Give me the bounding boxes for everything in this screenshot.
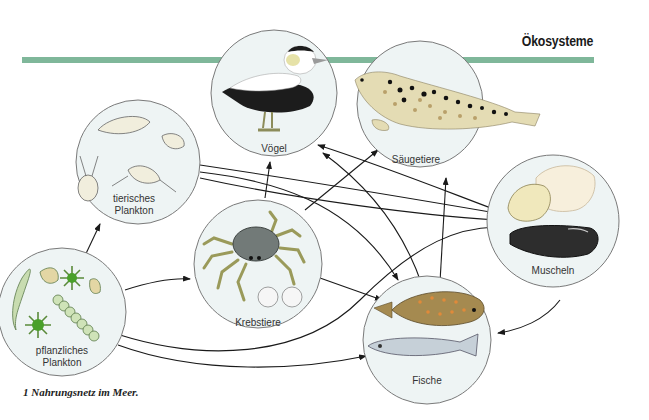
node-label-muscheln: Muscheln: [532, 265, 575, 276]
node-tierisches-plankton[interactable]: tierisches Plankton: [76, 100, 200, 224]
edge-pflanz-to-krebs: [125, 279, 190, 290]
food-web-diagram: Vögel Säugetiere: [0, 0, 649, 420]
node-label-voegel: Vögel: [261, 143, 287, 154]
node-label-pflanzliches: pflanzliches: [36, 345, 88, 356]
node-fische[interactable]: Fische: [363, 276, 491, 404]
node-muscheln[interactable]: Muscheln: [487, 155, 619, 287]
figure-caption: 1 Nahrungsnetz im Meer.: [23, 386, 139, 398]
node-saeugetiere[interactable]: Säugetiere: [355, 41, 540, 167]
edge-muscheln-to-fische: [498, 300, 560, 333]
edge-fische-to-saeuge: [440, 178, 446, 282]
edge-pflanz-to-fische: [118, 345, 366, 367]
node-label-saeugetiere: Säugetiere: [392, 154, 441, 165]
edge-fische-to-voegel: [323, 153, 422, 285]
node-label-krebstiere: Krebstiere: [235, 317, 281, 328]
node-pflanzliches-plankton[interactable]: pflanzliches Plankton: [0, 248, 126, 376]
node-label-plankton-plant: Plankton: [43, 357, 82, 368]
node-label-fische: Fische: [412, 375, 442, 386]
edge-krebs-to-saeuge: [305, 150, 378, 210]
node-krebstiere[interactable]: Krebstiere: [194, 200, 322, 328]
edge-krebs-to-voegel: [265, 162, 270, 198]
node-label-plankton-animal: Plankton: [115, 205, 154, 216]
edge-krebs-to-fische: [320, 278, 382, 300]
node-voegel[interactable]: Vögel: [211, 30, 337, 156]
node-label-tierisches: tierisches: [113, 193, 155, 204]
